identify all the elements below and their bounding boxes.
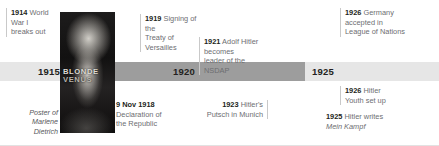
event-text-line2: Treaty of Versailles <box>145 33 177 52</box>
photo-caption-line1: Poster of Marlene <box>29 108 58 126</box>
event-year: 1914 <box>11 8 27 17</box>
event-text-line2: leader of the NSDAP <box>204 56 245 75</box>
event-text-line1: Germany <box>361 8 393 17</box>
axis-segment <box>0 62 33 81</box>
event-text-line1: Hitler writes <box>342 112 383 121</box>
event-year: 9 Nov 1918 <box>116 100 155 109</box>
event-1926-league-of-nations: 1926 Germany accepted in League of Natio… <box>340 8 414 37</box>
poster-title-line2: VENUS <box>63 76 99 84</box>
event-year: 1921 <box>204 37 220 46</box>
axis-year-1915: 1915 <box>38 62 60 81</box>
event-text-line2: Mein Kampf <box>326 122 365 131</box>
event-1918-declaration-republic: 9 Nov 1918 Declaration of the Republic <box>116 100 176 129</box>
event-1914-ww1: 1914 World War I breaks out <box>6 8 58 37</box>
event-text-line2: Youth set up <box>345 96 386 105</box>
axis-segment <box>115 62 160 81</box>
photo-caption-line2: Dietrich <box>34 127 58 136</box>
event-text-line1: Hitler's <box>239 100 263 109</box>
event-year: 1923 <box>222 100 238 109</box>
event-1926-hitler-youth: 1926 Hitler Youth set up <box>340 86 420 105</box>
event-text-line2: breaks out <box>11 27 46 36</box>
event-1925-mein-kampf: 1925 Hitler writes Mein Kampf <box>326 112 422 131</box>
timeline-figure: 1915 1920 1925 1914 World War I breaks o… <box>0 0 439 146</box>
poster-title: BLONDE VENUS <box>63 68 99 84</box>
event-text-line1: Declaration of <box>116 110 162 119</box>
event-text-line1: Hitler <box>361 86 380 95</box>
event-text-line2: the Republic <box>116 119 157 128</box>
event-1921-nsdap-leader: 1921 Adolf Hitler becomes leader of the … <box>199 37 271 75</box>
event-year: 1926 <box>345 8 361 17</box>
event-1923-munich-putsch: 1923 Hitler's Putsch in Munich <box>190 100 268 119</box>
event-text-line2: accepted in <box>345 18 383 27</box>
event-text-line3: League of Nations <box>345 27 405 36</box>
axis-year-1925: 1925 <box>312 62 334 81</box>
marlene-dietrich-poster-image: BLONDE VENUS <box>60 12 115 133</box>
event-1919-versailles: 1919 Signing of the Treaty of Versailles <box>140 14 202 52</box>
axis-year-1920: 1920 <box>173 62 195 81</box>
event-year: 1919 <box>145 14 161 23</box>
event-year: 1926 <box>345 86 361 95</box>
event-text-line2: Putsch in Munich <box>207 110 263 119</box>
photo-caption: Poster of Marlene Dietrich <box>2 108 58 136</box>
event-year: 1925 <box>326 112 342 121</box>
